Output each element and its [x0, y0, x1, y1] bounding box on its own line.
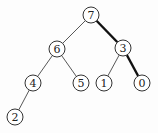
tree-node-5: 5	[73, 75, 89, 91]
nodes-group: 76345102	[7, 7, 150, 125]
node-label: 6	[54, 43, 61, 56]
tree-node-3: 3	[115, 40, 131, 56]
edge-7-3	[97, 21, 118, 43]
edge-4-2	[19, 90, 30, 110]
node-label: 1	[101, 77, 108, 90]
edge-6-4	[38, 56, 53, 77]
tree-node-0: 0	[134, 75, 150, 91]
tree-node-4: 4	[25, 75, 41, 91]
edges-group	[19, 21, 138, 110]
edge-7-6	[63, 21, 86, 44]
edge-3-1	[108, 55, 119, 76]
tree-svg: 76345102	[0, 0, 158, 133]
tree-node-2: 2	[7, 109, 23, 125]
tree-diagram: 76345102	[0, 0, 158, 133]
tree-node-6: 6	[49, 41, 65, 57]
node-label: 7	[88, 9, 95, 22]
edge-6-5	[62, 56, 77, 77]
node-label: 3	[120, 42, 127, 55]
node-label: 4	[30, 77, 37, 90]
edge-3-0	[127, 55, 138, 76]
tree-node-1: 1	[96, 75, 112, 91]
node-label: 2	[12, 111, 19, 124]
node-label: 5	[78, 77, 85, 90]
node-label: 0	[139, 77, 146, 90]
tree-node-7: 7	[83, 7, 99, 23]
